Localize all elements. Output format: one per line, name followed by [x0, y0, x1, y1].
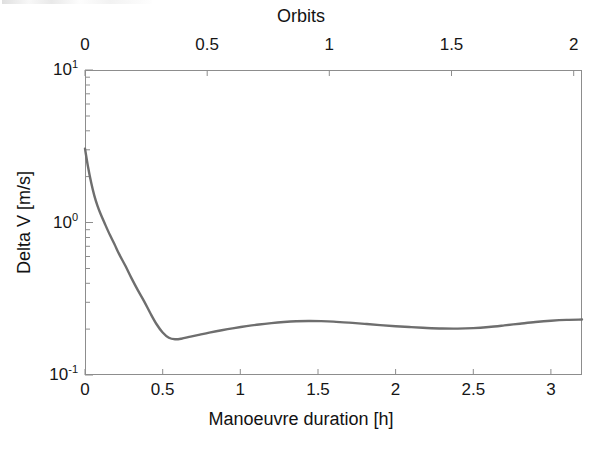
left-tick-label-10e0: 100: [28, 214, 78, 231]
bottom-tick-label-0: 0: [80, 381, 89, 398]
left-tick-mantissa-10e1: 10: [53, 60, 72, 79]
top-tick-label-1: 0.5: [195, 36, 219, 53]
bottom-tick-label-2: 1: [236, 381, 245, 398]
left-tick-label-10e1: 101: [28, 61, 78, 78]
top-tick-label-4: 2: [569, 36, 578, 53]
left-tick-mantissa-10e-1: 10: [49, 365, 68, 384]
left-tick-exponent-10e-1: -1: [68, 363, 78, 375]
bottom-tick-label-5: 2.5: [461, 381, 485, 398]
left-tick-exponent-10e1: 1: [72, 58, 78, 70]
left-minor-tick-marks: [85, 77, 90, 329]
bottom-tick-label-4: 2: [391, 381, 400, 398]
left-tick-exponent-10e0: 0: [72, 211, 78, 223]
bottom-tick-label-6: 3: [546, 381, 555, 398]
left-tick-label-10e-1: 10-1: [24, 366, 78, 383]
top-tick-marks: [85, 70, 574, 76]
top-tick-label-2: 1: [325, 36, 334, 53]
plot-svg: [0, 0, 602, 453]
top-tick-label-3: 1.5: [440, 36, 464, 53]
figure-container: Orbits Manoeuvre duration [h] Delta V [m…: [0, 0, 602, 453]
left-tick-mantissa-10e0: 10: [53, 213, 72, 232]
bottom-tick-label-3: 1.5: [306, 381, 330, 398]
bottom-tick-marks: [85, 369, 551, 375]
data-curve: [85, 149, 582, 340]
bottom-tick-label-1: 0.5: [151, 381, 175, 398]
top-tick-label-0: 0: [80, 36, 89, 53]
